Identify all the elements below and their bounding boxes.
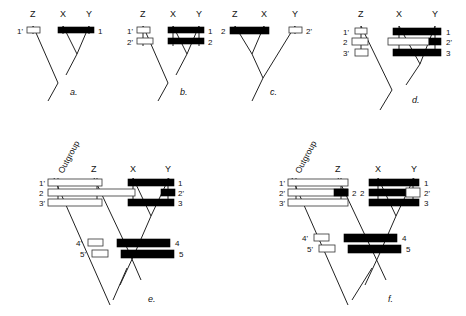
panel-f-innerlabel-left-2: 2 xyxy=(352,189,357,198)
panel-d-rowlabel-left-2: 2 xyxy=(343,38,348,47)
panel-e-rowlabel-right-4: 4 xyxy=(175,239,180,248)
panel-e-rowlabel-right-3: 3 xyxy=(178,199,183,208)
panel-e-marker-r1-left-open xyxy=(48,179,102,186)
panel-f-marker-r1-right-filled xyxy=(369,179,419,186)
panel-e-rowlabel-right-5: 5 xyxy=(179,250,184,259)
panel-f-rowlabel-right-5: 5 xyxy=(406,245,411,254)
panel-f-marker-r4-left-open xyxy=(314,234,329,241)
panel-d-rowlabel-right-1: 1 xyxy=(446,28,451,37)
panel-e-rowlabel-left-3p: 3' xyxy=(39,199,45,208)
panel-b-caption: b. xyxy=(180,87,188,97)
panel-a-rowlabel-left-1p: 1' xyxy=(17,27,23,36)
panel-e-branch-xy-stem xyxy=(134,216,151,255)
panel-e-marker-r5-right-filled xyxy=(121,250,174,258)
panel-b-branch-root xyxy=(158,83,168,101)
panel-b-marker-r1-right-filled xyxy=(168,27,204,33)
panel-d-marker-r2-left-open xyxy=(352,38,368,45)
panel-f-rowlabel-right-4: 4 xyxy=(402,234,407,243)
panel-e-outgroup-label: Outgroup xyxy=(56,139,82,175)
panel-d-branch-z xyxy=(361,26,392,90)
panel-e-rowlabel-left-1p: 1' xyxy=(39,179,45,188)
panel-f-rowlabel-left-5p: 5' xyxy=(307,245,313,254)
panel-c: Z X Y 2 2' c. xyxy=(221,9,312,101)
panel-a-branch-root xyxy=(48,83,58,101)
panel-c-caption: c. xyxy=(270,87,277,97)
panel-d-rowlabel-right-2p: 2' xyxy=(446,38,452,47)
panel-a-marker-r1-right-filled xyxy=(58,27,94,33)
panel-c-taxon-y-label: Y xyxy=(292,9,298,19)
panel-e-rowlabel-right-1: 1 xyxy=(178,179,183,188)
phylogeny-figure-svg: Z X Y 1' 1 a. Z X Y 1' 1 xyxy=(0,0,466,316)
panel-d-rowlabel-left-3p: 3' xyxy=(343,49,349,58)
figure-canvas: Z X Y 1' 1 a. Z X Y 1' 1 xyxy=(0,0,466,316)
panel-e-rowlabel-left-5p: 5' xyxy=(80,250,86,259)
panel-e-taxon-x-label: X xyxy=(130,164,136,174)
panel-e-branch-root xyxy=(113,268,127,300)
panel-d: Z X Y 1' 1 2 2' 3' 3 d. xyxy=(343,9,452,110)
panel-c-rowlabel-left-2: 2 xyxy=(221,27,226,36)
panel-e-marker-r5-left-open xyxy=(92,250,108,257)
panel-b-marker-r1-left-open xyxy=(137,27,150,33)
panel-b: Z X Y 1' 1 2' 2 b. xyxy=(127,9,213,101)
panel-e-marker-r4-right-filled xyxy=(117,239,170,247)
panel-e-taxon-y-label: Y xyxy=(165,164,171,174)
panel-b-taxon-y-label: Y xyxy=(196,9,202,19)
panel-d-marker-r1-left-open xyxy=(355,28,367,34)
panel-b-rowlabel-right-2: 2 xyxy=(208,38,213,47)
panel-a-taxon-x-label: X xyxy=(60,9,66,19)
panel-a-taxon-y-label: Y xyxy=(86,9,92,19)
panel-d-marker-r1-right-filled xyxy=(393,28,441,35)
panel-e-branch-zxy-left xyxy=(120,255,134,285)
panel-e-caption: e. xyxy=(148,294,156,304)
panel-f-caption: f. xyxy=(388,294,393,304)
panel-d-marker-r2-right-filled xyxy=(429,38,441,45)
panel-a-rowlabel-right-1: 1 xyxy=(98,27,103,36)
panel-f-marker-r4-right-filled xyxy=(344,234,397,242)
panel-c-branch-zx-stem xyxy=(252,54,263,78)
panel-b-taxon-x-label: X xyxy=(170,9,176,19)
panel-f-outgroup-label: Outgroup xyxy=(293,139,319,175)
panel-d-branch-root xyxy=(380,90,392,110)
panel-e-marker-r3-left-open xyxy=(48,199,102,206)
panel-f-taxon-z-label: Z xyxy=(335,164,341,174)
panel-d-caption: d. xyxy=(412,95,420,105)
panel-b-marker-r2-right-filled xyxy=(168,38,204,44)
panel-f-rowlabel-right-2p: 2' xyxy=(424,189,430,198)
panel-a-branch-xy-stem xyxy=(66,54,77,75)
panel-e-marker-r1-right-filled xyxy=(128,179,174,186)
panel-f-marker-r3-right-filled xyxy=(369,199,419,206)
panel-b-rowlabel-right-1: 1 xyxy=(208,27,213,36)
panel-e-marker-r3-right-filled xyxy=(128,199,174,206)
panel-e-marker-r2-left-open xyxy=(48,189,135,196)
panel-f-branch-root xyxy=(352,268,372,300)
panel-d-taxon-y-label: Y xyxy=(432,9,438,19)
panel-b-rowlabel-left-1p: 1' xyxy=(127,27,133,36)
panel-e-rowlabel-left-4p: 4' xyxy=(76,239,82,248)
panel-f-marker-r1-left-open xyxy=(288,179,348,186)
panel-d-rowlabel-left-1p: 1' xyxy=(343,28,349,37)
panel-d-taxon-z-label: Z xyxy=(358,9,364,19)
panel-a-taxon-z-label: Z xyxy=(30,9,36,19)
panel-d-branch-xy-stem xyxy=(406,64,420,85)
panel-e: Outgroup Z X Y 1' 1 2 2' 3' 3 xyxy=(39,139,184,305)
panel-d-taxon-x-label: X xyxy=(396,9,402,19)
panel-f-branch-outgroup xyxy=(292,178,348,305)
panel-b-rowlabel-left-2p: 2' xyxy=(127,38,133,47)
panel-e-marker-r4-left-open xyxy=(88,239,103,246)
panel-a: Z X Y 1' 1 a. xyxy=(17,9,103,101)
panel-f-taxon-y-label: Y xyxy=(411,164,417,174)
panel-f-taxon-x-label: X xyxy=(375,164,381,174)
panel-f-marker-r5-right-filled xyxy=(348,245,401,253)
panel-f-marker-r5-left-open xyxy=(319,245,335,252)
panel-e-rowlabel-right-2p: 2' xyxy=(178,189,184,198)
panel-d-marker-r3-right-filled xyxy=(393,49,441,56)
panel-f-rowlabel-left-1p: 1' xyxy=(279,179,285,188)
panel-c-marker-r1-right-open xyxy=(289,27,302,33)
panel-b-branch-z xyxy=(143,26,168,83)
panel-f-rowlabel-left-2p: 2' xyxy=(279,189,285,198)
panel-a-branch-z xyxy=(33,26,58,83)
panel-f-rowlabel-left-4p: 4' xyxy=(302,234,308,243)
panel-c-branch-root xyxy=(252,78,263,101)
panel-b-branch-xy-stem xyxy=(176,54,187,75)
panel-f-marker-r2-left-filled xyxy=(334,189,348,196)
